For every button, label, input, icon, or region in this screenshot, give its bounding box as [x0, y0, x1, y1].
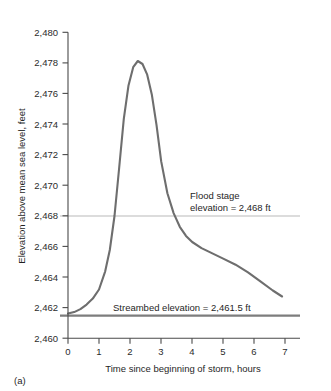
y-tick-label-2480: 2,480	[34, 27, 58, 38]
y-tick-label-2476: 2,476	[34, 88, 58, 99]
y-axis-title: Elevation above mean sea level, feet	[16, 108, 27, 264]
y-tick-label-2464: 2,464	[34, 272, 58, 283]
stage-hydrograph-curve	[68, 61, 282, 314]
y-tick-label-2472: 2,472	[34, 149, 58, 160]
x-tick-label-5: 5	[220, 346, 225, 357]
x-axis-tick-labels: 0 1 2 3 4 5 6 7	[65, 346, 287, 357]
hydrograph-figure: 2,480 2,478 2,476 2,474 2,472 2,470 2,46…	[0, 0, 331, 391]
x-tick-label-4: 4	[189, 346, 194, 357]
x-tick-label-0: 0	[65, 346, 70, 357]
y-axis-ticks	[63, 32, 69, 338]
flood-stage-annotation-line2: elevation = 2,468 ft	[190, 202, 271, 213]
y-axis-tick-labels: 2,480 2,478 2,476 2,474 2,472 2,470 2,46…	[34, 27, 58, 344]
flood-stage-annotation-line1: Flood stage	[190, 190, 240, 201]
figure-caption: (a)	[14, 375, 26, 386]
y-tick-label-2466: 2,466	[34, 241, 58, 252]
y-tick-label-2478: 2,478	[34, 57, 58, 68]
y-tick-label-2474: 2,474	[34, 119, 58, 130]
y-tick-label-2462: 2,462	[34, 302, 58, 313]
y-tick-label-2470: 2,470	[34, 180, 58, 191]
x-axis-title: Time since beginning of storm, hours	[105, 363, 261, 374]
y-tick-label-2468: 2,468	[34, 210, 58, 221]
x-tick-label-3: 3	[158, 346, 163, 357]
x-tick-label-1: 1	[96, 346, 101, 357]
streambed-annotation-line1: Streambed elevation = 2,461.5 ft	[113, 302, 251, 313]
x-tick-label-7: 7	[282, 346, 287, 357]
hydrograph-chart: 2,480 2,478 2,476 2,474 2,472 2,470 2,46…	[0, 0, 331, 391]
x-axis-ticks	[68, 338, 285, 344]
y-tick-label-2460: 2,460	[34, 333, 58, 344]
x-tick-label-2: 2	[127, 346, 132, 357]
x-tick-label-6: 6	[251, 346, 256, 357]
